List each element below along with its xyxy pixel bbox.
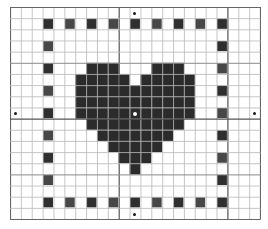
border-stitch xyxy=(217,63,227,73)
heart-stitch xyxy=(108,96,119,107)
heart-stitch xyxy=(151,141,162,152)
border-stitch xyxy=(65,19,75,29)
heart-stitch xyxy=(162,63,173,74)
heart-stitch xyxy=(75,96,86,107)
heart-stitch xyxy=(108,141,119,152)
heart-stitch xyxy=(140,96,151,107)
border-stitch xyxy=(43,63,53,73)
border-stitch xyxy=(43,86,53,96)
heart-stitch xyxy=(108,119,119,130)
top-center-marker xyxy=(133,12,136,15)
heart-stitch xyxy=(140,85,151,96)
heart-stitch xyxy=(119,119,130,130)
border-stitch xyxy=(217,108,227,118)
heart-stitch xyxy=(173,63,184,74)
heart-stitch xyxy=(130,96,141,107)
border-stitch xyxy=(174,19,184,29)
heart-stitch xyxy=(151,63,162,74)
heart-stitch xyxy=(86,96,97,107)
border-stitch xyxy=(130,197,140,207)
border-stitch xyxy=(43,19,53,29)
heart-stitch xyxy=(130,130,141,141)
heart-stitch xyxy=(140,74,151,85)
border-stitch xyxy=(43,41,53,51)
heart-stitch xyxy=(97,96,108,107)
border-stitch xyxy=(130,19,140,29)
heart-stitch xyxy=(130,152,141,163)
heart-stitch xyxy=(97,63,108,74)
heart-stitch xyxy=(86,119,97,130)
border-stitch xyxy=(217,175,227,185)
border-stitch xyxy=(108,19,118,29)
heart-stitch xyxy=(119,152,130,163)
heart-stitch xyxy=(75,85,86,96)
heart-stitch xyxy=(108,63,119,74)
heart-stitch xyxy=(151,85,162,96)
heart-stitch xyxy=(119,130,130,141)
heart-stitch xyxy=(108,85,119,96)
heart-stitch xyxy=(162,130,173,141)
border-stitch xyxy=(43,130,53,140)
heart-stitch xyxy=(97,85,108,96)
heart-stitch xyxy=(140,107,151,118)
heart-stitch xyxy=(173,74,184,85)
border-stitch xyxy=(174,197,184,207)
heart-stitch xyxy=(130,119,141,130)
border-stitch xyxy=(108,197,118,207)
border-stitch xyxy=(43,197,53,207)
heart-stitch xyxy=(108,107,119,118)
heart-stitch xyxy=(97,130,108,141)
heart-stitch xyxy=(75,74,86,85)
heart-stitch xyxy=(86,107,97,118)
heart-stitch xyxy=(140,119,151,130)
heart-stitch xyxy=(151,96,162,107)
heart-stitch xyxy=(130,163,141,174)
heart-stitch xyxy=(173,107,184,118)
border-stitch xyxy=(87,197,97,207)
heart-stitch xyxy=(108,74,119,85)
heart-stitch xyxy=(86,63,97,74)
border-stitch xyxy=(87,19,97,29)
heart-stitch xyxy=(162,119,173,130)
heart-stitch xyxy=(173,96,184,107)
heart-stitch xyxy=(97,74,108,85)
heart-stitch xyxy=(119,74,130,85)
border-stitch xyxy=(43,108,53,118)
heart-stitch xyxy=(75,107,86,118)
heart-stitch xyxy=(162,96,173,107)
center-marker xyxy=(133,112,137,116)
heart-stitch xyxy=(97,119,108,130)
border-stitch xyxy=(43,175,53,185)
heart-stitch xyxy=(130,141,141,152)
border-stitch xyxy=(217,130,227,140)
border-stitch xyxy=(217,153,227,163)
heart-stitch xyxy=(97,107,108,118)
heart-stitch xyxy=(86,85,97,96)
heart-stitch xyxy=(162,85,173,96)
border-stitch xyxy=(65,197,75,207)
heart-stitch xyxy=(108,130,119,141)
heart-stitch xyxy=(173,85,184,96)
heart-stitch xyxy=(119,96,130,107)
heart-stitch xyxy=(151,74,162,85)
heart-stitch xyxy=(184,74,195,85)
heart-stitch xyxy=(151,107,162,118)
border-stitch xyxy=(217,197,227,207)
border-stitch xyxy=(217,86,227,96)
border-stitch xyxy=(152,197,162,207)
heart-stitch xyxy=(151,119,162,130)
heart-stitch xyxy=(162,74,173,85)
heart-stitch xyxy=(140,152,151,163)
heart-stitch xyxy=(184,107,195,118)
border-stitch xyxy=(195,19,205,29)
left-center-marker xyxy=(14,112,17,115)
heart-stitch xyxy=(119,85,130,96)
heart-stitch xyxy=(184,85,195,96)
heart-stitch xyxy=(162,107,173,118)
heart-stitch xyxy=(184,96,195,107)
heart-stitch xyxy=(86,74,97,85)
heart-stitch xyxy=(140,130,151,141)
heart-stitch xyxy=(173,119,184,130)
right-center-marker xyxy=(253,112,256,115)
border-stitch xyxy=(43,153,53,163)
